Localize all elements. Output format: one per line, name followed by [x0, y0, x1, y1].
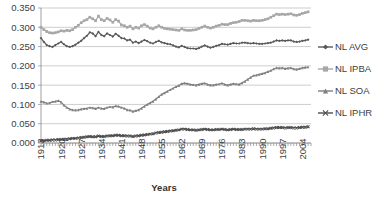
marker-square	[172, 28, 175, 31]
marker-diamond	[278, 39, 281, 42]
marker-square	[212, 26, 215, 29]
marker-square	[63, 30, 66, 33]
marker-square	[275, 13, 278, 16]
marker-square	[290, 12, 293, 15]
marker-square	[146, 25, 149, 28]
marker-square	[192, 29, 195, 32]
marker-diamond	[235, 42, 238, 45]
x-tick-label-group: 1927	[76, 138, 87, 159]
legend-label: NL AVG	[335, 41, 368, 52]
marker-square	[281, 13, 284, 16]
line-chart: 0.0000.0500.1000.1500.2000.2500.3000.350…	[0, 0, 372, 213]
marker-square	[278, 13, 281, 16]
marker-square	[134, 26, 137, 29]
legend-item-nl-iphr[interactable]: NL IPHR	[318, 107, 372, 118]
marker-square	[258, 19, 261, 22]
marker-square	[261, 19, 264, 22]
x-tick-label: 2004	[297, 138, 308, 159]
marker-square	[74, 26, 77, 29]
x-tick-label: 1934	[96, 138, 107, 159]
marker-square	[94, 19, 97, 22]
marker-square	[223, 23, 226, 26]
marker-square	[189, 29, 192, 32]
marker-square	[186, 29, 189, 32]
series-nl-ipba	[40, 11, 310, 35]
marker-square	[183, 29, 186, 32]
marker-square	[140, 24, 143, 27]
legend-item-nl-soa[interactable]: NL SOA	[318, 85, 370, 96]
y-tick-label: 0.050	[11, 118, 35, 129]
marker-diamond	[192, 47, 195, 50]
marker-diamond	[264, 42, 267, 45]
marker-diamond	[258, 43, 261, 46]
marker-diamond	[249, 42, 252, 45]
y-tick-label: 0.200	[11, 60, 35, 71]
x-tick-label: 1990	[257, 138, 268, 159]
marker-square	[292, 14, 295, 17]
marker-square	[226, 23, 229, 26]
legend-item-nl-avg[interactable]: NL AVG	[318, 41, 368, 52]
y-tick-label: 0.250	[11, 41, 35, 52]
marker-diamond	[301, 39, 304, 42]
marker-diamond	[267, 42, 270, 45]
x-tick-label: 1927	[76, 138, 87, 159]
marker-square	[114, 18, 117, 21]
marker-square	[287, 13, 290, 16]
marker-square	[323, 66, 328, 71]
marker-square	[272, 14, 275, 17]
marker-diamond	[163, 42, 166, 45]
legend-label: NL IPBA	[335, 63, 372, 74]
marker-square	[88, 16, 91, 19]
marker-square	[103, 19, 106, 22]
x-tick-label: 1962	[176, 138, 187, 159]
marker-square	[246, 19, 249, 22]
marker-square	[249, 20, 252, 23]
marker-square	[218, 24, 221, 27]
marker-square	[298, 13, 301, 16]
x-tick-label: 1976	[216, 138, 227, 159]
x-tick-label-group: 1990	[257, 138, 268, 159]
marker-square	[80, 21, 83, 24]
marker-square	[304, 11, 307, 14]
marker-diamond	[244, 41, 247, 44]
x-tick-label-group: 1997	[277, 138, 288, 159]
x-tick-label: 1983	[236, 138, 247, 159]
marker-square	[77, 24, 80, 27]
marker-square	[229, 22, 232, 25]
marker-square	[198, 27, 201, 30]
marker-square	[126, 26, 129, 29]
x-tick-label-group: 1983	[236, 138, 247, 159]
marker-diamond	[323, 44, 328, 49]
x-tick-label-group: 1969	[196, 138, 207, 159]
y-tick-label: 0.000	[11, 137, 35, 148]
marker-square	[68, 29, 71, 32]
marker-square	[295, 14, 298, 17]
marker-diamond	[298, 40, 301, 43]
marker-diamond	[166, 43, 169, 46]
marker-square	[117, 20, 120, 23]
marker-diamond	[284, 39, 287, 42]
legend-item-nl-ipba[interactable]: NL IPBA	[318, 63, 372, 74]
marker-square	[51, 32, 54, 35]
marker-square	[86, 18, 89, 21]
marker-square	[111, 21, 114, 24]
marker-square	[264, 18, 267, 21]
legend-label: NL SOA	[335, 85, 370, 96]
marker-square	[201, 26, 204, 29]
marker-diamond	[232, 42, 235, 45]
x-tick-label-group: 1955	[156, 138, 167, 159]
marker-diamond	[189, 47, 192, 50]
marker-square	[252, 19, 255, 22]
marker-square	[166, 27, 169, 30]
y-tick-label: 0.350	[11, 2, 35, 13]
x-tick-label-group: 1941	[116, 138, 127, 159]
marker-square	[132, 27, 135, 30]
marker-square	[238, 20, 241, 23]
marker-square	[307, 11, 310, 14]
marker-square	[137, 27, 140, 30]
marker-square	[169, 28, 172, 31]
x-tick-label: 1920	[56, 138, 67, 159]
marker-square	[129, 25, 132, 28]
marker-square	[178, 29, 181, 32]
marker-square	[209, 27, 212, 30]
